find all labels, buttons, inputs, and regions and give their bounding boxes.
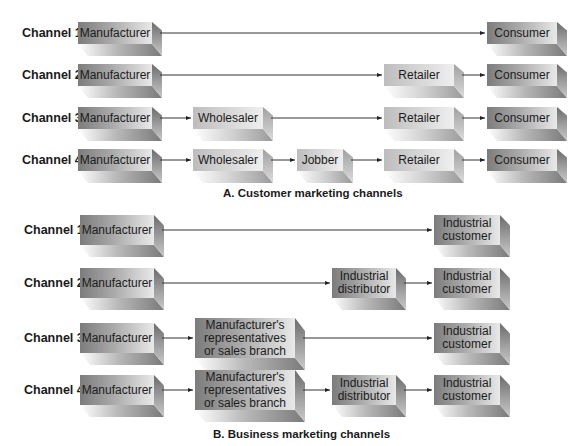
section-a-caption: A. Customer marketing channels <box>223 187 403 199</box>
section-b-caption: B. Business marketing channels <box>213 428 390 440</box>
arrow-layer <box>0 0 582 446</box>
